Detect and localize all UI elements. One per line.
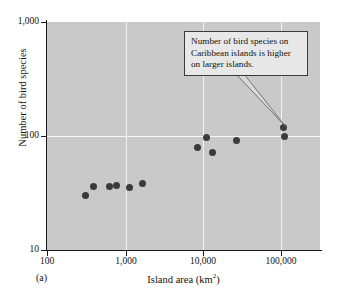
gridline-horizontal: [47, 136, 320, 137]
annotation-leader-line: [236, 74, 292, 130]
y-axis-tick: [41, 136, 47, 137]
figure-panel-a: 1,000 100 10 100 1,000 10,000 100,000 Nu…: [0, 0, 337, 298]
data-point: [281, 133, 288, 140]
x-axis-title: Island area (km2): [47, 272, 320, 285]
x-axis-title-base: Island area (km: [147, 274, 212, 285]
x-tick-label-10000: 10,000: [190, 257, 216, 267]
data-point: [209, 149, 216, 156]
data-point: [203, 134, 210, 141]
annotation-line-2: Caribbean islands is higher: [191, 48, 302, 60]
annotation-line-3: on larger islands.: [191, 59, 302, 71]
y-axis-tick: [41, 22, 47, 23]
panel-label: (a): [36, 272, 47, 283]
data-point: [113, 182, 120, 189]
y-tick-label-1000: 1,000: [18, 17, 39, 27]
data-point: [194, 144, 201, 151]
y-tick-label-10: 10: [30, 245, 40, 255]
x-tick-label-100000: 100,000: [266, 257, 297, 267]
y-axis-title: Number of bird species: [17, 28, 28, 168]
x-tick-label-100: 100: [40, 257, 54, 267]
annotation-line-1: Number of bird species on: [191, 36, 302, 48]
x-tick-label-1000: 1,000: [115, 257, 136, 267]
x-axis-title-tail: ): [216, 274, 220, 285]
data-point: [82, 192, 89, 199]
annotation-callout: Number of bird species on Caribbean isla…: [184, 31, 308, 76]
data-point: [106, 183, 113, 190]
